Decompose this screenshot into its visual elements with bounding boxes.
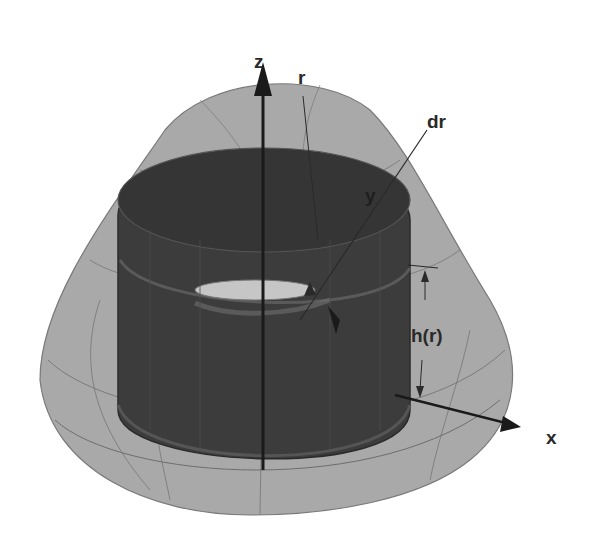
z-axis-label: z bbox=[254, 52, 264, 71]
shell-method-diagram bbox=[0, 0, 590, 554]
x-axis-label: x bbox=[546, 428, 557, 447]
radius-label: r bbox=[298, 68, 305, 87]
y-axis-label: y bbox=[365, 186, 376, 205]
dr-label: dr bbox=[427, 112, 446, 131]
h-of-r-label: h(r) bbox=[411, 326, 443, 345]
